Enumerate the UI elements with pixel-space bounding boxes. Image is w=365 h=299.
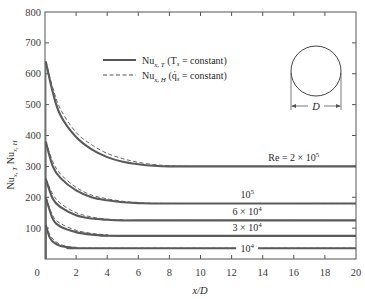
y-tick-label: 800 <box>25 7 41 18</box>
x-tick-label: 8 <box>167 267 172 278</box>
x-tick-label: 14 <box>257 267 268 278</box>
curve-constant-heat-flux <box>46 179 356 221</box>
x-tick-label: 12 <box>226 267 237 278</box>
reynolds-number-label: 3 × 104 <box>233 221 263 233</box>
x-tick-label: 18 <box>320 267 331 278</box>
legend: Nux, T (Ts = constant) Nux, H (q̇s = con… <box>103 55 227 84</box>
chart: 0246810121416182010020030040050060070080… <box>0 0 365 299</box>
x-tick-label: 16 <box>289 267 300 278</box>
curve-constant-temperature <box>46 179 356 221</box>
axis-ticks: 0246810121416182010020030040050060070080… <box>25 7 361 279</box>
arrowhead-right-icon <box>336 104 341 108</box>
y-tick-label: 300 <box>25 161 41 172</box>
x-tick-label: 0 <box>34 267 39 278</box>
plot-frame <box>45 12 356 259</box>
y-tick-label: 100 <box>25 223 41 234</box>
x-tick-label: 10 <box>195 267 206 278</box>
x-axis-label: x/D <box>191 285 208 296</box>
reynolds-number-label: Re = 2 × 105 <box>268 151 319 163</box>
plot-axes <box>45 12 356 259</box>
y-tick-label: 400 <box>25 130 41 141</box>
x-tick-label: 2 <box>73 267 78 278</box>
y-tick-label: 200 <box>25 192 41 203</box>
x-tick-label: 4 <box>105 267 111 278</box>
legend-entry-constant-temperature: Nux, T (Ts = constant) <box>142 55 227 69</box>
x-tick-label: 6 <box>136 267 141 278</box>
y-axis-label: Nux, T Nux, H <box>5 139 19 189</box>
reynolds-number-label: 6 × 104 <box>233 205 263 217</box>
pipe-cross-section-inset: D <box>291 46 341 112</box>
x-tick-label: 20 <box>351 267 362 278</box>
y-tick-label: 700 <box>25 37 41 48</box>
legend-entry-constant-heat-flux: Nux, H (q̇s = constant) <box>142 70 227 84</box>
pipe-circle-icon <box>291 46 341 96</box>
y-tick-label: 500 <box>25 99 41 110</box>
arrowhead-left-icon <box>291 104 296 108</box>
diameter-label: D <box>311 101 320 112</box>
y-tick-label: 600 <box>25 68 41 79</box>
reynolds-number-label: 105 <box>240 188 254 200</box>
